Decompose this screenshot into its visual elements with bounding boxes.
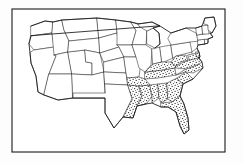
us-map-figure <box>0 0 243 165</box>
state-arizona <box>44 74 73 100</box>
figure-root <box>0 0 243 165</box>
state-oklahoma <box>104 72 128 85</box>
state-montana <box>62 18 99 41</box>
